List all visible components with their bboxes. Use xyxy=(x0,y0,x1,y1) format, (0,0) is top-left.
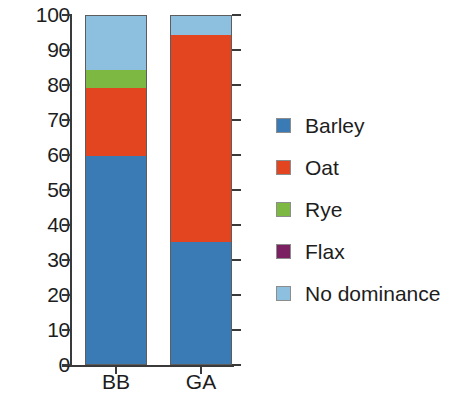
y-axis-tick-mark-right xyxy=(232,224,241,226)
x-axis-label-bb: BB xyxy=(85,371,147,392)
legend-label: Barley xyxy=(305,115,365,136)
stacked-bar-chart: 1009080706050403020100 BB GA BarleyOatRy… xyxy=(0,0,473,412)
y-axis-tick-mark-right xyxy=(232,364,241,366)
bar-segment-no-dominance[interactable] xyxy=(86,16,146,70)
y-axis-tick-mark xyxy=(62,14,71,16)
legend-item-barley[interactable]: Barley xyxy=(276,104,466,146)
bar-segment-oat[interactable] xyxy=(171,35,231,242)
x-axis-label-ga: GA xyxy=(170,371,232,392)
legend-swatch-icon xyxy=(276,118,291,133)
y-axis-tick-mark xyxy=(62,119,71,121)
legend-swatch-icon xyxy=(276,202,291,217)
bar-column-bb[interactable] xyxy=(85,15,147,365)
y-axis-tick-mark-right xyxy=(232,294,241,296)
bar-segment-barley[interactable] xyxy=(171,242,231,365)
y-axis-tick-mark-right xyxy=(232,259,241,261)
y-axis-tick-mark xyxy=(62,364,71,366)
legend-item-no-dominance[interactable]: No dominance xyxy=(276,272,466,314)
legend-item-flax[interactable]: Flax xyxy=(276,230,466,272)
y-axis-tick-mark xyxy=(62,49,71,51)
legend-swatch-icon xyxy=(276,286,291,301)
legend-label: Oat xyxy=(305,157,339,178)
plot-area: 1009080706050403020100 BB GA xyxy=(0,0,250,412)
y-axis-tick-mark xyxy=(62,189,71,191)
y-axis-tick-mark-right xyxy=(232,49,241,51)
y-axis-tick-mark-right xyxy=(232,154,241,156)
y-axis-tick-mark xyxy=(62,294,71,296)
y-axis-tick-labels: 1009080706050403020100 xyxy=(0,0,70,412)
y-axis-tick-mark xyxy=(62,84,71,86)
bar-segment-oat[interactable] xyxy=(86,88,146,156)
y-axis-tick-mark-right xyxy=(232,119,241,121)
y-axis-tick-mark-right xyxy=(232,14,241,16)
legend-label: Rye xyxy=(305,199,342,220)
bar-segment-rye[interactable] xyxy=(86,70,146,88)
legend-item-oat[interactable]: Oat xyxy=(276,146,466,188)
legend-swatch-icon xyxy=(276,160,291,175)
x-axis-line xyxy=(62,365,234,367)
y-axis-tick-mark xyxy=(62,259,71,261)
legend-label: Flax xyxy=(305,241,345,262)
chart-legend: BarleyOatRyeFlaxNo dominance xyxy=(276,104,466,314)
legend-item-rye[interactable]: Rye xyxy=(276,188,466,230)
y-axis-tick-mark xyxy=(62,154,71,156)
y-axis-tick-mark-right xyxy=(232,189,241,191)
y-axis-tick-mark xyxy=(62,224,71,226)
legend-label: No dominance xyxy=(305,283,440,304)
bar-column-ga[interactable] xyxy=(170,15,232,365)
y-axis-tick-mark-right xyxy=(232,329,241,331)
legend-swatch-icon xyxy=(276,244,291,259)
bar-segment-no-dominance[interactable] xyxy=(171,16,231,35)
y-axis-tick-mark xyxy=(62,329,71,331)
y-axis-tick-mark-right xyxy=(232,84,241,86)
bar-segment-barley[interactable] xyxy=(86,156,146,365)
